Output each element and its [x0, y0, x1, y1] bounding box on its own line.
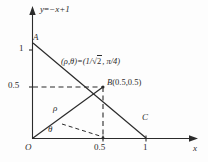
polar-annotation-rhs: , π/4) [102, 56, 120, 66]
y-axis [29, 6, 35, 139]
equation-rhs: −x+1 [49, 4, 70, 14]
origin-label: O [25, 143, 32, 152]
x-tick-label-one: 1 [143, 143, 148, 152]
polar-annotation-radicand: 2 [97, 55, 102, 66]
figure-canvas: y=−x+1 A 1 0.5 (ρ,θ)=(1/√2, π/4) B(0.5,0… [0, 0, 208, 162]
polar-coordinate-annotation: (ρ,θ)=(1/√2, π/4) [61, 57, 120, 66]
segment-rho-OB [33, 87, 103, 138]
polar-annotation-lhs: (ρ,θ)=(1/ [61, 56, 92, 66]
x-axis [33, 135, 199, 141]
point-label-B: B(0.5,0.5) [107, 78, 141, 87]
rho-label: ρ [53, 104, 57, 113]
y-axis-arrow-icon [29, 6, 35, 15]
point-label-C: C [142, 113, 148, 122]
x-axis-label: x [193, 144, 197, 153]
geometry-diagram [0, 0, 208, 162]
line-equation-label: y=−x+1 [40, 5, 70, 14]
point-label-A: A [33, 33, 39, 42]
point-marker-x-half [102, 137, 105, 140]
dashed-theta-chord [62, 124, 100, 136]
theta-label: θ [48, 125, 52, 134]
point-label-B-coords: (0.5,0.5) [112, 77, 141, 87]
x-axis-arrow-icon [189, 135, 198, 141]
x-tick-label-half: 0.5 [94, 143, 105, 152]
y-tick-label-half: 0.5 [8, 81, 19, 90]
point-marker-B [102, 86, 105, 89]
y-tick-label-one: 1 [19, 44, 24, 53]
sqrt-icon: √2 [92, 57, 102, 66]
